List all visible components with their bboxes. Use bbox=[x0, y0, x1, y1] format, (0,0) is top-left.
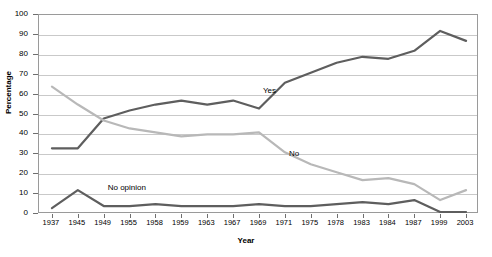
y-axis-label: 40 bbox=[2, 129, 28, 137]
series-annotation-no-opinion: No opinion bbox=[108, 183, 146, 192]
x-axis-title: Year bbox=[0, 236, 492, 245]
x-axis-tick bbox=[337, 214, 338, 218]
y-axis-label: 30 bbox=[2, 149, 28, 157]
y-axis-label: 80 bbox=[2, 50, 28, 58]
y-axis-label: 60 bbox=[2, 90, 28, 98]
series-line-no-opinion bbox=[52, 190, 466, 212]
x-axis-tick bbox=[233, 214, 234, 218]
y-axis-label: 90 bbox=[2, 30, 28, 38]
series-line-yes bbox=[52, 31, 466, 148]
x-axis-tick bbox=[52, 214, 53, 218]
x-axis-tick bbox=[259, 214, 260, 218]
series-annotation-yes: Yes bbox=[263, 86, 276, 95]
x-axis-tick bbox=[414, 214, 415, 218]
x-axis-tick bbox=[130, 214, 131, 218]
y-axis-label: 20 bbox=[2, 169, 28, 177]
plot-area: YesNoNo opinion bbox=[38, 14, 478, 213]
x-axis-tick bbox=[285, 214, 286, 218]
y-axis-label: 0 bbox=[2, 209, 28, 217]
y-axis-label: 70 bbox=[2, 70, 28, 78]
x-axis-tick bbox=[363, 214, 364, 218]
x-axis-tick bbox=[181, 214, 182, 218]
y-axis-label: 50 bbox=[2, 110, 28, 118]
x-axis-tick bbox=[311, 214, 312, 218]
series-lines bbox=[39, 15, 479, 214]
y-axis-label: 100 bbox=[2, 10, 28, 18]
x-axis-label: 2003 bbox=[448, 218, 482, 227]
x-axis-tick bbox=[388, 214, 389, 218]
y-axis-label: 10 bbox=[2, 189, 28, 197]
x-axis-tick bbox=[104, 214, 105, 218]
x-axis-tick bbox=[78, 214, 79, 218]
x-axis-tick bbox=[466, 214, 467, 218]
y-axis-tick bbox=[33, 213, 38, 214]
x-axis-tick bbox=[440, 214, 441, 218]
x-axis-tick bbox=[207, 214, 208, 218]
chart-figure: Percentage Year 0102030405060708090100 1… bbox=[0, 0, 492, 257]
series-annotation-no: No bbox=[289, 149, 299, 158]
x-axis-tick bbox=[155, 214, 156, 218]
